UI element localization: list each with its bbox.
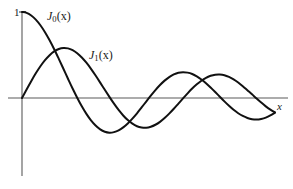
curve-label-j0-arg: (x) — [57, 9, 71, 23]
bessel-function-figure: J0(x) J1(x) x 1 — [0, 0, 293, 189]
plot-canvas — [0, 0, 293, 189]
curve-label-j0: J0(x) — [47, 10, 71, 24]
curve-label-j1: J1(x) — [89, 49, 113, 63]
curve-j0 — [22, 12, 275, 133]
curve-label-j1-arg: (x) — [99, 48, 113, 62]
x-axis-label: x — [277, 101, 282, 112]
y-axis-tick-label-one: 1 — [14, 7, 20, 18]
